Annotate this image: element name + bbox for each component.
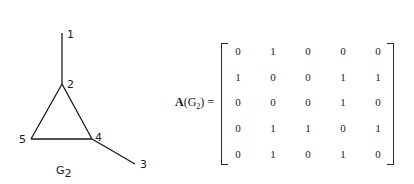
graph-drawing: 12345 G2	[0, 0, 414, 184]
matrix-cell-r3-c2: 0	[266, 96, 280, 108]
edge-2-5	[31, 84, 62, 139]
vertex-label-2: 2	[67, 78, 74, 91]
matrix-cell-r4-c1: 0	[231, 122, 245, 134]
vertex-label-3: 3	[140, 158, 147, 171]
graph-caption: G2	[56, 164, 72, 180]
matrix-cell-r2-c1: 1	[231, 71, 245, 83]
matrix-cell-r4-c5: 1	[371, 122, 385, 134]
matrix-cell-r4-c2: 1	[266, 122, 280, 134]
matrix-cell-r1-c5: 0	[371, 45, 385, 57]
graph-edges	[31, 33, 135, 164]
matrix-cell-r1-c3: 0	[301, 45, 315, 57]
vertex-label-1: 1	[67, 28, 74, 41]
matrix-cell-r2-c3: 0	[301, 71, 315, 83]
vertex-label-5: 5	[19, 133, 26, 146]
left-bracket	[221, 43, 228, 165]
vertex-labels: 12345	[19, 28, 147, 171]
matrix-cell-r4-c4: 0	[336, 122, 350, 134]
matrix-cell-r5-c2: 1	[266, 148, 280, 160]
matrix-cell-r5-c3: 0	[301, 148, 315, 160]
matrix-label: A(G2) =	[175, 95, 214, 111]
matrix-cell-r5-c4: 1	[336, 148, 350, 160]
matrix-cell-r1-c1: 0	[231, 45, 245, 57]
matrix-cell-r2-c4: 1	[336, 71, 350, 83]
edge-2-4	[62, 84, 92, 139]
matrix-cell-r1-c2: 1	[266, 45, 280, 57]
matrix-cell-r3-c4: 1	[336, 96, 350, 108]
matrix-cell-r2-c2: 0	[266, 71, 280, 83]
matrix-cell-r5-c1: 0	[231, 148, 245, 160]
figure: 12345 G2 A(G2) = 01000100110001001101010…	[0, 0, 414, 184]
matrix-cell-r3-c5: 0	[371, 96, 385, 108]
matrix-cell-r2-c5: 1	[371, 71, 385, 83]
matrix-cell-r1-c4: 0	[336, 45, 350, 57]
matrix-cell-r3-c1: 0	[231, 96, 245, 108]
matrix-cell-r3-c3: 0	[301, 96, 315, 108]
matrix-cell-r4-c3: 1	[301, 122, 315, 134]
matrix-cell-r5-c5: 0	[371, 148, 385, 160]
vertex-label-4: 4	[95, 131, 102, 144]
right-bracket	[387, 43, 394, 165]
